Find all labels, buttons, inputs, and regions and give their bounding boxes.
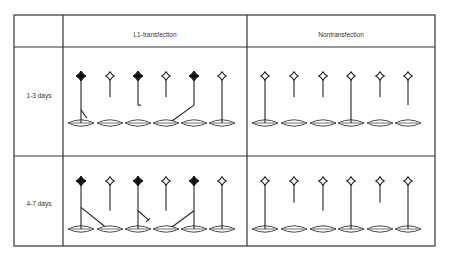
transfected-soma-icon [189, 71, 199, 81]
soma-icon [162, 72, 170, 80]
neuron [209, 177, 235, 232]
cell-1-3-days-nontransfection [252, 72, 421, 126]
soma-icon [404, 72, 412, 80]
neuron [310, 72, 336, 126]
neuron [97, 72, 123, 126]
neuron [172, 176, 207, 232]
neuron [153, 177, 179, 232]
table-grid [14, 15, 435, 246]
neuron-targeting-diagram: L1-transfection Nontransfection 1-3 days… [0, 0, 450, 262]
axon-branch [81, 110, 87, 118]
column-header-nontransfection: Nontransfection [318, 31, 364, 38]
soma-icon [290, 72, 298, 80]
row-label-4-7-days: 4-7 days [27, 200, 53, 208]
soma-icon [162, 177, 170, 185]
neuron [338, 177, 364, 232]
cell-4-7-days-nontransfection [252, 177, 421, 232]
neuron [68, 71, 94, 126]
soma-icon [347, 72, 355, 80]
cell-1-3-days-l1-transfection [68, 71, 235, 126]
neuron [395, 72, 421, 126]
soma-icon [218, 72, 226, 80]
axon-branch [138, 211, 150, 222]
row-label-1-3-days: 1-3 days [27, 92, 53, 100]
soma-icon [347, 177, 355, 185]
transfected-soma-icon [76, 176, 86, 186]
soma-icon [106, 72, 114, 80]
cell-4-7-days-l1-transfection [68, 176, 235, 232]
soma-icon [404, 177, 412, 185]
column-header-l1-transfection: L1-transfection [134, 31, 177, 38]
neuron [338, 72, 364, 126]
soma-icon [261, 72, 269, 80]
neuron [252, 177, 278, 232]
soma-icon [376, 72, 384, 80]
neuron [125, 176, 151, 232]
axon-branch [172, 105, 194, 121]
soma-icon [218, 177, 226, 185]
neuron [172, 71, 207, 126]
neuron [281, 72, 307, 126]
transfected-soma-icon [133, 176, 143, 186]
neuron [367, 72, 393, 126]
neuron [209, 72, 235, 126]
neuron [68, 176, 108, 232]
soma-icon [319, 177, 327, 185]
transfected-soma-icon [76, 71, 86, 81]
transfected-soma-icon [133, 71, 143, 81]
neuron [252, 72, 278, 126]
neuron [310, 177, 336, 232]
neuron [367, 177, 393, 232]
table-border [14, 15, 435, 246]
soma-icon [261, 177, 269, 185]
neuron [125, 71, 151, 126]
transfected-soma-icon [189, 176, 199, 186]
axon-branch [172, 211, 194, 227]
neuron [395, 177, 421, 232]
neuron [153, 72, 179, 126]
soma-icon [319, 72, 327, 80]
soma-icon [106, 177, 114, 185]
soma-icon [376, 177, 384, 185]
soma-icon [290, 177, 298, 185]
neuron [281, 177, 307, 232]
